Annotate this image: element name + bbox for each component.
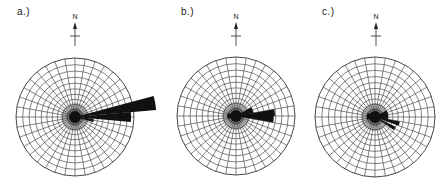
rose-diagram-c: N	[315, 13, 435, 177]
petals	[75, 96, 156, 122]
north-arrow-icon: N	[231, 13, 241, 46]
north-label: N	[233, 13, 238, 20]
rose-diagram-a: N	[16, 13, 156, 176]
north-arrow-icon: N	[371, 13, 381, 46]
north-label: N	[373, 13, 378, 20]
north-label: N	[72, 13, 77, 20]
north-arrow-icon: N	[70, 13, 80, 46]
rose-diagram-b: N	[177, 13, 295, 175]
rose-diagrams-plot: NNN	[0, 0, 447, 187]
